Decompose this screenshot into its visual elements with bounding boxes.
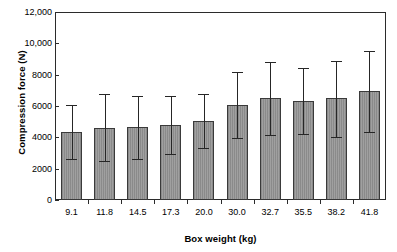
x-axis-tick-mark [287, 200, 288, 204]
error-bar-upper-cap [99, 94, 110, 95]
error-bar-upper-cap [364, 51, 375, 52]
error-bar-stem [72, 105, 73, 159]
y-axis-tick-mark [55, 200, 59, 201]
x-axis-tick-mark [187, 200, 188, 204]
x-axis-tick-mark [221, 200, 222, 204]
compression-force-bar-chart: Compression force (N) Box weight (kg) 02… [0, 0, 397, 252]
x-axis-tick-mark [154, 200, 155, 204]
error-bar-lower-cap [265, 135, 276, 136]
error-bar-upper-cap [265, 62, 276, 63]
error-bar-stem [237, 72, 238, 139]
error-bar-stem [303, 68, 304, 135]
error-bar-stem [369, 51, 370, 132]
x-axis-tick-mark [254, 200, 255, 204]
error-bar-upper-cap [232, 72, 243, 73]
x-axis-tick-label: 41.8 [347, 207, 391, 217]
error-bar-upper-cap [298, 68, 309, 69]
error-bar-stem [138, 96, 139, 159]
error-bar-upper-cap [165, 96, 176, 97]
error-bar-upper-cap [66, 105, 77, 106]
error-bar-lower-cap [364, 132, 375, 133]
x-axis-tick-mark [121, 200, 122, 204]
error-bar-lower-cap [132, 159, 143, 160]
bars-and-error-bars [55, 12, 386, 200]
error-bar-stem [204, 94, 205, 149]
error-bar-lower-cap [66, 159, 77, 160]
x-axis-tick-mark [88, 200, 89, 204]
error-bar-upper-cap [331, 61, 342, 62]
error-bar-stem [336, 61, 337, 137]
error-bar-stem [105, 94, 106, 161]
error-bar-stem [171, 96, 172, 154]
error-bar-lower-cap [331, 137, 342, 138]
error-bar-lower-cap [165, 154, 176, 155]
error-bar-lower-cap [99, 161, 110, 162]
error-bar-lower-cap [198, 148, 209, 149]
error-bar-upper-cap [132, 96, 143, 97]
x-axis-tick-mark [320, 200, 321, 204]
error-bar-upper-cap [198, 94, 209, 95]
error-bar-stem [270, 62, 271, 134]
error-bar-lower-cap [298, 134, 309, 135]
error-bar-lower-cap [232, 138, 243, 139]
x-axis-tick-mark [353, 200, 354, 204]
